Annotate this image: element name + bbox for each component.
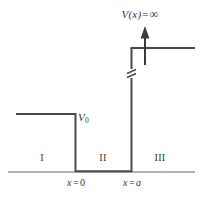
infinity-symbol: ∞ — [150, 7, 159, 21]
upward-arrow-icon — [141, 26, 150, 65]
axis-break-marker-icon — [127, 70, 136, 78]
potential-energy-diagram: V(x)=∞ V0 I II III x=0 x=a — [0, 0, 203, 198]
infinite-potential-function: V(x) — [122, 8, 142, 20]
region-label-1: I — [40, 153, 44, 163]
axis-label-operator-a: = — [127, 177, 136, 188]
axis-label-value-0: 0 — [80, 177, 85, 188]
infinite-potential-label: V(x)=∞ — [122, 8, 159, 20]
diagram-canvas — [0, 0, 203, 198]
region-label-3: III — [155, 153, 166, 163]
step-height-subscript: 0 — [85, 116, 89, 125]
axis-label-x-equals-zero: x=0 — [67, 178, 85, 188]
infinite-potential-operator: = — [141, 8, 149, 20]
step-height-symbol: V — [78, 111, 85, 123]
region-label-2: II — [99, 153, 106, 163]
step-height-label: V0 — [78, 112, 88, 123]
axis-label-x-equals-a: x=a — [123, 178, 141, 188]
axis-label-operator-0: = — [71, 177, 80, 188]
axis-label-value-a: a — [136, 177, 141, 188]
